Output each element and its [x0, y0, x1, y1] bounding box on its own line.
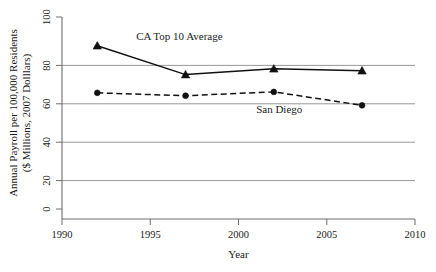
data-point-marker	[359, 102, 365, 108]
series-line-ca-top-10-average	[97, 46, 362, 75]
x-tick-label-2000: 2000	[228, 229, 249, 240]
x-tick-label-2010: 2010	[405, 229, 426, 240]
annotation-san-diego: San Diego	[256, 103, 303, 115]
data-point-marker	[271, 89, 277, 95]
line-chart-canvas: 100 80 60 40 20 0 Annual Payroll per 100…	[0, 0, 436, 272]
x-axis-tick-labels: 1990 1995 2000 2005 2010	[52, 229, 426, 240]
axes	[62, 17, 415, 219]
series-line-san-diego	[97, 92, 362, 105]
y-tick-label-20: 20	[41, 175, 52, 186]
data-point-marker	[183, 93, 189, 99]
y-tick-label-60: 60	[41, 99, 52, 110]
series-ca-top-10-average	[93, 42, 366, 78]
y-axis-title: Annual Payroll per 100,000 Residents ($ …	[7, 29, 33, 197]
y-tick-label-80: 80	[41, 60, 52, 71]
y-axis-ticks	[56, 17, 62, 209]
chart-figure: 100 80 60 40 20 0 Annual Payroll per 100…	[0, 0, 436, 272]
y-tick-label-0: 0	[41, 206, 52, 211]
data-point-marker	[93, 42, 101, 49]
y-axis-title-line2: ($ Millions, 2007 Dolllars)	[20, 53, 33, 172]
series-markers-san-diego	[94, 89, 365, 108]
annotation-ca-top-10-average: CA Top 10 Average	[136, 30, 223, 42]
x-tick-label-1990: 1990	[52, 229, 73, 240]
x-tick-label-1995: 1995	[140, 229, 161, 240]
series-san-diego	[94, 89, 365, 108]
gridlines	[62, 65, 415, 180]
y-tick-label-100: 100	[41, 9, 52, 25]
y-axis-title-line1: Annual Payroll per 100,000 Residents	[7, 29, 19, 197]
x-axis-ticks	[62, 219, 415, 225]
x-tick-label-2005: 2005	[316, 229, 337, 240]
y-tick-label-40: 40	[41, 137, 52, 148]
data-point-marker	[94, 90, 100, 96]
y-axis-tick-labels: 100 80 60 40 20 0	[41, 9, 52, 212]
x-axis-title: Year	[228, 248, 249, 260]
